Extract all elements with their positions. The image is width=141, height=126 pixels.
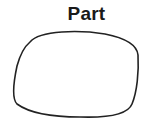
part-blob-shape — [0, 0, 141, 126]
